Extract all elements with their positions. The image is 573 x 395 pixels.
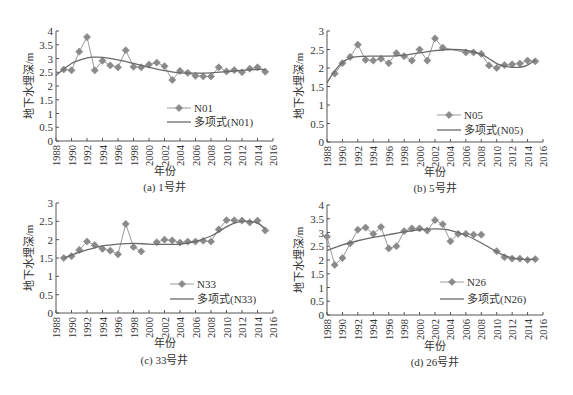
- x-tick-label: 2006: [461, 319, 472, 340]
- y-tick-label: 3.5: [310, 213, 324, 225]
- x-tick-label: 1996: [113, 145, 124, 166]
- diamond-marker: [153, 59, 160, 66]
- y-tick-label: 3.5: [39, 39, 53, 51]
- x-tick-label: 2004: [445, 318, 456, 340]
- y-tick-label: 1: [319, 99, 325, 111]
- x-tick-label: 2006: [191, 317, 202, 338]
- y-tick-label: 2: [48, 234, 54, 246]
- diamond-marker: [385, 245, 392, 252]
- chart-panel-d: 00.511.522.533.5419881990199219941996199…: [293, 199, 549, 369]
- x-tick-label: 1994: [368, 145, 379, 167]
- x-tick-label: 2014: [253, 316, 264, 338]
- y-tick-label: 2: [319, 62, 325, 74]
- diamond-marker: [161, 236, 168, 243]
- trend-line: [327, 49, 535, 82]
- diamond-marker: [485, 62, 492, 69]
- diamond-marker: [478, 231, 485, 238]
- diamond-marker: [200, 73, 207, 80]
- legend-label: 多项式(N01): [194, 115, 254, 129]
- x-tick-label: 2006: [461, 146, 472, 167]
- x-axis-label: 年份: [424, 339, 446, 352]
- x-tick-label: 2012: [507, 146, 518, 167]
- x-tick-label: 1998: [399, 146, 410, 167]
- diamond-marker: [246, 219, 253, 226]
- panel-caption: (b) 5号井: [413, 181, 456, 195]
- x-tick-label: 2000: [415, 319, 426, 340]
- x-axis-label: 年份: [154, 164, 176, 177]
- y-tick-label: 1: [48, 108, 54, 120]
- x-tick-label: 2010: [222, 317, 233, 338]
- y-tick-label: 0.5: [310, 295, 324, 307]
- x-tick-label: 2014: [523, 318, 534, 340]
- x-tick-label: 1990: [67, 145, 78, 166]
- x-axis-label: 年份: [424, 165, 446, 178]
- diamond-marker: [362, 56, 369, 63]
- x-tick-label: 1996: [384, 319, 395, 340]
- y-tick-label: 2: [319, 254, 325, 266]
- legend-label: 多项式(N33): [197, 292, 257, 306]
- y-tick-label: 4: [48, 25, 54, 37]
- x-tick-label: 2012: [507, 319, 518, 340]
- legend-diamond-icon: [448, 278, 455, 285]
- y-tick-label: 4: [319, 199, 325, 211]
- x-tick-label: 1998: [399, 319, 410, 340]
- diamond-marker: [424, 227, 431, 234]
- x-tick-label: 1996: [113, 317, 124, 338]
- diamond-marker: [130, 243, 137, 250]
- y-tick-label: 1: [48, 270, 54, 282]
- x-tick-label: 2008: [206, 317, 217, 338]
- legend-diamond-icon: [178, 280, 185, 287]
- x-tick-label: 1988: [51, 145, 62, 166]
- y-tick-label: 1.5: [39, 252, 53, 264]
- diamond-marker: [161, 63, 168, 70]
- panel-caption: (a) 1号井: [143, 180, 185, 194]
- legend-label: N01: [194, 102, 213, 114]
- x-tick-label: 2010: [492, 319, 503, 340]
- x-tick-label: 1996: [384, 146, 395, 167]
- legend-diamond-icon: [445, 111, 452, 118]
- chart-panel-c: 00.511.522.53198819901992199419961998200…: [23, 197, 279, 367]
- y-tick-label: 1.5: [310, 81, 324, 93]
- x-tick-label: 2010: [222, 145, 233, 166]
- legend-label: 多项式(N05): [464, 123, 524, 137]
- x-tick-label: 1990: [337, 146, 348, 167]
- x-axis-label: 年份: [154, 336, 176, 349]
- y-axis-label: 地下水埋深/m: [23, 52, 35, 119]
- legend: N01多项式(N01): [167, 102, 254, 129]
- diamond-marker: [424, 57, 431, 64]
- figure-4-panel-groundwater-depth: 00.511.522.533.5419881990199219941996199…: [0, 0, 573, 395]
- x-tick-label: 2016: [538, 146, 549, 167]
- diamond-marker: [354, 41, 361, 48]
- diamond-marker: [393, 243, 400, 250]
- x-tick-label: 2014: [253, 144, 264, 166]
- x-tick-label: 1992: [82, 145, 93, 166]
- diamond-marker: [431, 217, 438, 224]
- y-tick-label: 1.5: [39, 94, 53, 106]
- x-tick-label: 2002: [160, 317, 171, 338]
- y-tick-label: 2.5: [310, 240, 324, 252]
- diamond-marker: [354, 226, 361, 233]
- x-tick-label: 2016: [538, 319, 549, 340]
- x-tick-label: 2006: [191, 145, 202, 166]
- x-tick-label: 2008: [206, 145, 217, 166]
- x-tick-label: 2008: [476, 146, 487, 167]
- panel-caption: (d) 26号井: [411, 355, 460, 369]
- x-tick-label: 2002: [430, 319, 441, 340]
- diamond-marker: [114, 251, 121, 258]
- diamond-marker: [76, 48, 83, 55]
- chart-panel-a: 00.511.522.533.5419881990199219941996199…: [23, 25, 279, 194]
- diamond-marker: [138, 248, 145, 255]
- y-axis-label: 地下水埋深/m: [293, 226, 305, 293]
- legend-diamond-icon: [175, 104, 182, 111]
- legend: N33多项式(N33): [170, 278, 257, 306]
- x-tick-label: 1998: [129, 317, 140, 338]
- trend-line: [327, 229, 535, 260]
- x-tick-label: 2008: [476, 319, 487, 340]
- x-tick-label: 1992: [353, 319, 364, 340]
- x-tick-label: 1990: [337, 319, 348, 340]
- x-tick-label: 2004: [175, 144, 186, 166]
- diamond-marker: [323, 233, 330, 240]
- x-tick-label: 2000: [415, 146, 426, 167]
- y-tick-label: 0.5: [39, 121, 53, 133]
- x-tick-label: 1988: [51, 317, 62, 338]
